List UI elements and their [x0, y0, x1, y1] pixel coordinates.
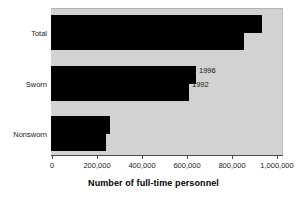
bar-chart-figure: Total Sworn Nonsworn 1996 1992 0 200,000…: [0, 0, 307, 198]
x-axis-tick-600000: [187, 155, 188, 159]
x-axis-tick-0: [52, 155, 53, 159]
category-label-sworn: Sworn: [26, 80, 47, 89]
bar-nonsworn-1996: [51, 116, 110, 134]
bar-sworn-1996: [51, 66, 196, 84]
x-axis-line: [51, 155, 283, 156]
category-label-total: Total: [31, 29, 47, 38]
category-label-nonsworn: Nonsworn: [13, 130, 47, 139]
x-axis-tick-label-400000: 400,000: [128, 161, 155, 170]
x-axis-tick-800000: [232, 155, 233, 159]
bar-total-1996: [51, 15, 262, 33]
x-axis-tick-label-0: 0: [50, 161, 54, 170]
x-axis-title: Number of full-time personnel: [0, 178, 307, 188]
bar-nonsworn-1992: [51, 134, 106, 151]
series-annotation-1996: 1996: [199, 66, 216, 75]
x-axis-tick-label-600000: 600,000: [173, 161, 200, 170]
plot-area: [51, 8, 283, 155]
plot-border-top: [51, 8, 283, 9]
x-axis-tick-1000000: [277, 155, 278, 159]
plot-border-right: [282, 8, 283, 155]
series-annotation-1992: 1992: [192, 80, 209, 89]
x-axis-tick-label-200000: 200,000: [83, 161, 110, 170]
x-axis-tick-label-800000: 800,000: [218, 161, 245, 170]
bar-sworn-1992: [51, 84, 189, 101]
x-axis-tick-label-1000000: 1,000,000: [260, 161, 293, 170]
x-axis-tick-200000: [97, 155, 98, 159]
bar-total-1992: [51, 33, 244, 50]
x-axis-tick-400000: [142, 155, 143, 159]
